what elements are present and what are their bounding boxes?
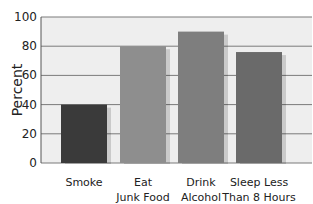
bar xyxy=(236,52,282,163)
bar xyxy=(178,32,224,163)
x-category-label: Junk Food xyxy=(115,191,169,204)
y-axis-label: Percent xyxy=(9,63,25,116)
y-tick-label: 100 xyxy=(14,10,37,24)
x-category-label: Smoke xyxy=(65,176,102,189)
plot-area: 020406080100SmokeEatJunk FoodDrinkAlcoho… xyxy=(14,10,312,204)
x-category-label: Eat xyxy=(134,176,153,189)
bar xyxy=(61,105,107,163)
y-tick-label: 0 xyxy=(29,156,37,170)
x-category-label: Than 8 Hours xyxy=(221,191,296,204)
x-category-label: Sleep Less xyxy=(230,176,288,189)
bar-chart: 020406080100SmokeEatJunk FoodDrinkAlcoho… xyxy=(0,0,313,204)
bar xyxy=(120,46,166,163)
y-tick-label: 20 xyxy=(22,127,37,141)
x-category-label: Drink xyxy=(186,176,216,189)
x-category-label: Alcohol xyxy=(181,191,221,204)
y-tick-label: 80 xyxy=(22,39,37,53)
